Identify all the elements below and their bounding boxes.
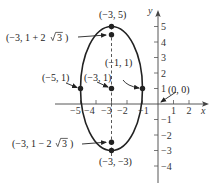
- y-tick-label: 2: [161, 68, 166, 79]
- ellipse-diagram: −5 −4 −3 −2 −1 1 2 x 5 4 3 2 1 −1 −2 −3 …: [0, 0, 211, 183]
- origin-label: (0, 0): [168, 84, 190, 96]
- right-covertex-point: [140, 86, 145, 91]
- left-covertex-arrow-icon: [66, 83, 77, 88]
- top-vertex-label: (−3, 5): [99, 9, 126, 21]
- right-covertex-arrow-icon: [123, 80, 139, 88]
- x-tick-label: 1: [171, 105, 176, 116]
- svg-text:(−3, 1 + 2: (−3, 1 + 2: [6, 32, 46, 44]
- y-tick-label: 3: [161, 52, 166, 63]
- lower-focus-arrow-icon: [82, 142, 106, 144]
- upper-focus-point: [109, 32, 114, 37]
- x-tick-label: −3: [101, 105, 112, 116]
- left-covertex-point: [78, 86, 83, 91]
- svg-text:): ): [70, 138, 73, 150]
- y-tick-label: −4: [161, 161, 172, 172]
- svg-text:(−3, 1 − 2: (−3, 1 − 2: [12, 138, 52, 150]
- svg-text:3: 3: [62, 138, 67, 149]
- x-tick-label: −2: [117, 105, 128, 116]
- y-tick-label: 4: [161, 37, 166, 48]
- x-tick-label: −5: [70, 105, 81, 116]
- top-vertex-point: [109, 24, 114, 29]
- lower-focus-point: [109, 140, 114, 145]
- svg-text:): ): [65, 32, 68, 44]
- y-tick-label: −1: [161, 114, 172, 125]
- lower-focus-label: (−3, 1 − 2 3 ): [12, 138, 73, 150]
- y-ticks: [154, 27, 158, 167]
- upper-focus-label: (−3, 1 + 2 3 ): [6, 32, 68, 44]
- y-tick-label: 5: [161, 21, 166, 32]
- y-tick-label: 1: [161, 83, 166, 94]
- svg-text:3: 3: [57, 32, 62, 43]
- y-tick-label: −2: [161, 130, 172, 141]
- left-covertex-label: (−5, 1): [42, 72, 69, 84]
- bottom-vertex-point: [109, 148, 114, 153]
- y-tick-label: −3: [161, 145, 172, 156]
- x-tick-label: 2: [187, 105, 192, 116]
- upper-focus-arrow-icon: [78, 35, 106, 37]
- bottom-vertex-label: (−3, −3): [99, 156, 132, 168]
- center-point: [109, 86, 114, 91]
- center-label: (−3, 1): [84, 72, 111, 84]
- x-ticks: [81, 100, 190, 104]
- y-axis-label: y: [147, 5, 153, 16]
- right-covertex-label: (−1, 1): [105, 57, 132, 69]
- x-tick-label: −4: [84, 105, 95, 116]
- x-axis-label: x: [200, 105, 206, 116]
